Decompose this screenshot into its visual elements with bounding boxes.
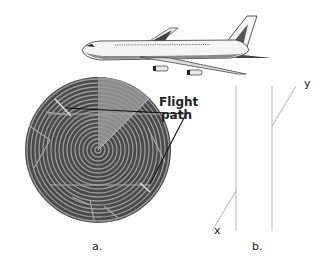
flight-path-label: Flight path — [159, 96, 198, 122]
figure: Flight path a. b. x y — [0, 0, 329, 267]
plot-b — [212, 86, 296, 231]
airplane-icon — [82, 16, 272, 75]
flight-path-label-line2: path — [159, 109, 198, 122]
panel-a-label: a. — [92, 240, 102, 253]
panel-b-label: b. — [252, 240, 262, 253]
axis-x-label: x — [214, 224, 221, 237]
axis-y-label: y — [304, 77, 311, 90]
